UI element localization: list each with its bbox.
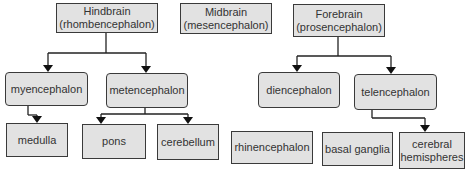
forebrain-sublabel: (prosencephalon) xyxy=(296,21,382,33)
rhinencephalon-label: rhinencephalon xyxy=(234,141,309,154)
telencephalon-label: telencephalon xyxy=(361,86,430,99)
hindbrain-label: Hindbrain xyxy=(83,5,130,17)
hemispheres-label: hemispheres xyxy=(401,151,464,163)
myencephalon-box: myencephalon xyxy=(5,72,88,106)
forebrain-label: Forebrain xyxy=(315,8,362,20)
midbrain-label: Midbrain xyxy=(205,6,247,18)
myencephalon-label: myencephalon xyxy=(11,83,83,96)
cerebral-label: cerebral xyxy=(412,138,452,150)
cerebellum-box: cerebellum xyxy=(157,124,219,160)
hindbrain-sublabel: (rhombencephalon) xyxy=(59,18,154,30)
metencephalon-box: metencephalon xyxy=(106,73,188,108)
diencephalon-label: diencephalon xyxy=(266,84,331,97)
diencephalon-box: diencephalon xyxy=(258,72,340,108)
basal-ganglia-label: basal ganglia xyxy=(325,143,390,156)
medulla-label: medulla xyxy=(18,134,57,147)
midbrain-box: Midbrain (mesencephalon) xyxy=(180,3,272,34)
forebrain-box: Forebrain (prosencephalon) xyxy=(293,4,385,37)
rhinencephalon-box: rhinencephalon xyxy=(231,131,313,164)
metencephalon-label: metencephalon xyxy=(109,84,184,97)
basal-ganglia-box: basal ganglia xyxy=(322,132,393,166)
midbrain-sublabel: (mesencephalon) xyxy=(184,19,269,31)
pons-box: pons xyxy=(82,124,146,159)
cerebellum-label: cerebellum xyxy=(161,136,215,149)
pons-label: pons xyxy=(102,135,126,148)
telencephalon-box: telencephalon xyxy=(354,74,437,110)
cerebral-hemispheres-box: cerebral hemispheres xyxy=(399,132,465,169)
hindbrain-box: Hindbrain (rhombencephalon) xyxy=(56,3,158,33)
medulla-box: medulla xyxy=(6,123,68,157)
